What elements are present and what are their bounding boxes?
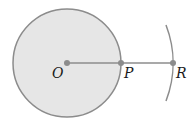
- geometry-diagram: O P R: [0, 0, 196, 123]
- point-o: [64, 60, 70, 66]
- label-p: P: [123, 65, 134, 81]
- label-o: O: [52, 65, 64, 81]
- label-r: R: [175, 65, 187, 81]
